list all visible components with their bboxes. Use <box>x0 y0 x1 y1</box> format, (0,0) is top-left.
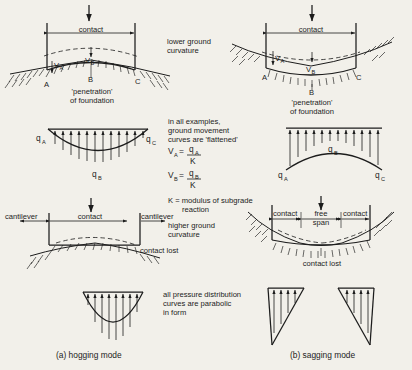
q-b-label-panel-a: q <box>92 169 97 179</box>
penetration-caption-line1-b: 'penetration' <box>292 98 333 107</box>
figure-foundation-modes: contact V A <box>0 0 412 370</box>
equation-va: V A = q A K <box>168 144 201 166</box>
penetration-caption-line1-a: 'penetration' <box>72 87 113 96</box>
point-a-label-b-top: A <box>262 73 268 82</box>
eq1-denominator: K <box>190 156 196 166</box>
parabolic-note-line1: all pressure distribution <box>163 290 241 299</box>
ground-movement-curve-a <box>44 48 139 57</box>
center-notes-block: in all examples, ground movement curves … <box>168 117 253 214</box>
cantilever-label-left-a: cantilever <box>5 212 38 221</box>
ground-hatching-left-b-lower <box>246 214 268 242</box>
lower-ground-note-line1: lower ground <box>167 37 211 46</box>
v-a-subscript-b-top: A <box>281 58 285 64</box>
eq2-numerator: q <box>189 168 194 178</box>
eq1-numerator: q <box>189 144 194 154</box>
ground-movement-curve-a-lower <box>56 237 136 245</box>
note-examples-line2: ground movement <box>168 126 230 135</box>
contact-label-a-top: contact <box>79 25 104 34</box>
parabola-curve-a-bottom <box>83 292 143 322</box>
ground-hatching-right-a <box>140 71 169 90</box>
parabolic-note-line3: in form <box>163 308 186 317</box>
q-c-label-panel-a: q <box>146 134 151 144</box>
ground-hatching-right-b-lower <box>374 212 392 236</box>
q-b-label-panel-b: q <box>328 144 333 154</box>
eq2-lhs-subscript: B <box>174 176 178 182</box>
v-a-subscript-a-top: A <box>60 65 64 71</box>
panel-b-pressure-distribution: q A q B q C <box>278 128 385 182</box>
panel-b-free-span: contact free span contact contact lost <box>246 196 394 268</box>
parabolic-note-line2: curves are parabolic <box>163 299 232 308</box>
contact-label-a-lower: contact <box>78 212 103 221</box>
q-a-label-panel-b: q <box>278 170 283 180</box>
caption-b: (b) sagging mode <box>290 350 356 360</box>
q-b-subscript-panel-b: B <box>334 150 338 156</box>
spike-right-arrows <box>347 290 368 333</box>
q-c-subscript-panel-a: C <box>152 140 156 146</box>
beam-soffit-b-lower <box>272 240 370 245</box>
k-definition-line2: reaction <box>182 205 209 214</box>
contact-lost-label-a: contact lost <box>140 246 179 255</box>
higher-ground-note-line1: higher ground <box>168 221 215 230</box>
eq2-equals: = <box>179 170 184 180</box>
contact-label-b-top: contact <box>299 25 324 34</box>
panel-a-bottom-parabola <box>83 292 143 340</box>
panel-b-top-sagging: contact V A V B A B <box>230 5 394 116</box>
q-a-label-panel-a: q <box>36 133 41 143</box>
q-c-label-panel-b: q <box>375 170 380 180</box>
spike-left-edge <box>268 288 272 345</box>
ground-hatching-right-b <box>364 37 394 61</box>
penetration-caption-line2-b: of foundation <box>290 107 334 116</box>
point-c-label-b-top: C <box>356 73 362 82</box>
spike-right-edge <box>370 288 374 345</box>
note-examples-line3: curves are 'flattened' <box>168 135 238 144</box>
spike-left-group <box>268 288 304 345</box>
contact-lost-label-b: contact lost <box>303 259 342 268</box>
lower-ground-note-line2: curvature <box>167 46 199 55</box>
q-c-subscript-panel-b: C <box>381 176 385 182</box>
ground-hatching-left-b <box>230 46 260 65</box>
panel-a-pressure-distribution: q A q C q B <box>36 129 156 181</box>
contact-label-right-b-lower: contact <box>343 209 368 218</box>
parabolic-note-block: all pressure distribution curves are par… <box>163 290 241 317</box>
eq2-denominator: K <box>190 180 196 190</box>
panel-a-top-hogging: contact V A <box>5 5 211 105</box>
free-span-label-line1: free <box>314 209 327 218</box>
pressure-parabola-b <box>286 154 382 171</box>
point-c-label-a-top: C <box>135 77 141 86</box>
eq1-lhs-subscript: A <box>174 152 178 158</box>
parabola-arrows-a-bottom <box>88 294 137 340</box>
eq1-equals: = <box>179 146 184 156</box>
ground-movement-curve-b-lower-right <box>322 230 366 243</box>
higher-ground-note-line2: curvature <box>168 230 200 239</box>
point-a-label-a-top: A <box>44 80 50 89</box>
q-b-subscript-panel-a: B <box>98 175 102 181</box>
penetration-caption-line2-a: of foundation <box>70 96 114 105</box>
point-b-label-a-top: B <box>88 75 93 84</box>
caption-a: (a) hogging mode <box>56 350 122 360</box>
point-b-label-b-top: B <box>309 88 314 97</box>
panel-b-bottom-spikes <box>268 288 374 345</box>
pressure-arrows-a <box>55 131 143 162</box>
ground-hatching-left-a <box>5 69 44 88</box>
v-b-subscript-b-top: B <box>312 69 316 75</box>
contact-label-left-b-lower: contact <box>273 209 298 218</box>
spike-left-arrows <box>274 290 295 333</box>
contact-hatching-b-lower <box>273 241 370 258</box>
cantilever-label-right-a: cantilever <box>141 212 174 221</box>
k-definition-line1: K = modulus of subgrade <box>168 196 253 205</box>
spike-right-group <box>338 288 374 345</box>
v-b-subscript-a-top: B <box>91 60 95 66</box>
q-a-subscript-panel-b: A <box>284 176 288 182</box>
note-examples-line1: in all examples, <box>168 117 220 126</box>
q-a-subscript-panel-a: A <box>42 139 46 145</box>
free-span-label-line2: span <box>313 218 329 227</box>
equation-vb: V B = q B K <box>168 168 201 190</box>
